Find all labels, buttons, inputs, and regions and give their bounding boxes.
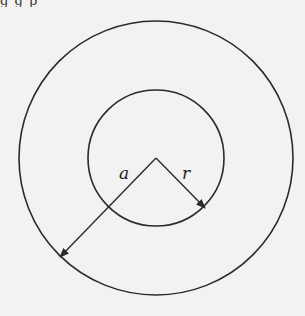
radius-a-arrow [60,158,156,257]
radius-r-arrow [156,158,205,208]
label-r: r [182,163,191,183]
concentric-circles-diagram: a r [0,0,305,316]
label-a: a [119,163,129,183]
